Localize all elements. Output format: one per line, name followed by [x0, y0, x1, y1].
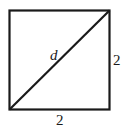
bottom-side-label: 2	[56, 112, 64, 128]
diagonal-label: d	[50, 47, 58, 63]
right-side-label: 2	[113, 52, 121, 68]
diagonal-line	[10, 11, 110, 110]
square-diagram: d 2 2	[0, 0, 126, 129]
